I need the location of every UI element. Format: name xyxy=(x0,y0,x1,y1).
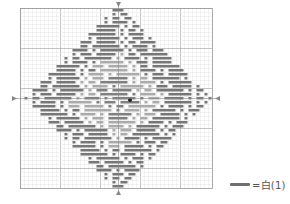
legend: =白(1) xyxy=(230,177,286,191)
embroidery-chart xyxy=(0,0,290,204)
legend-label: =白(1) xyxy=(252,177,286,192)
legend-bar-icon xyxy=(230,183,250,186)
